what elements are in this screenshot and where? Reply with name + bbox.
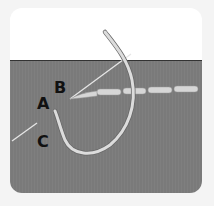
stitch-3 [148, 87, 172, 93]
stitch-1 [97, 89, 121, 95]
label-b: B [54, 80, 66, 96]
needle-line-c [12, 123, 37, 141]
stitch-illustration [0, 0, 214, 206]
label-c: C [37, 134, 49, 150]
stitch-4 [174, 86, 198, 92]
label-a: A [37, 96, 49, 112]
stitch-pointed [70, 91, 97, 99]
